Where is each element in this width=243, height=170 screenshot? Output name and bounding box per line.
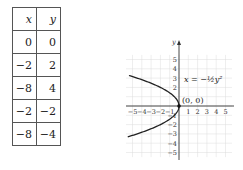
y-tick-labels: 5432−1−2−3−4−5: [167, 56, 177, 157]
x-tick-label: −4: [137, 108, 147, 116]
x-tick-label: 3: [205, 108, 209, 116]
equation-label: x = −½y²: [184, 75, 222, 84]
y-tick-label: 2: [173, 84, 177, 92]
x-tick-label: 1: [186, 108, 190, 116]
y-tick-label: 5: [173, 56, 177, 64]
y-tick-label: 4: [173, 65, 177, 73]
x-tick-label: 5: [223, 108, 227, 116]
y-axis-label: y: [171, 38, 176, 46]
y-tick-label: −3: [167, 130, 177, 138]
x-tick-label: −3: [146, 108, 156, 116]
y-axis-arrow-icon: [177, 40, 181, 45]
parabola-graph: y −5−4−3−2−112345 5432−1−2−3−4−5 (0, 0) …: [0, 0, 243, 170]
vertex-point: [177, 104, 181, 108]
y-tick-label: −4: [167, 140, 177, 148]
y-tick-label: −5: [167, 149, 177, 157]
x-tick-label: 2: [196, 108, 200, 116]
x-tick-label: 4: [214, 108, 218, 116]
y-tick-label: −2: [167, 121, 177, 129]
vertex-label: (0, 0): [182, 96, 204, 105]
y-tick-label: 3: [173, 75, 177, 83]
x-tick-label: −5: [128, 108, 138, 116]
x-tick-label: −2: [156, 108, 166, 116]
